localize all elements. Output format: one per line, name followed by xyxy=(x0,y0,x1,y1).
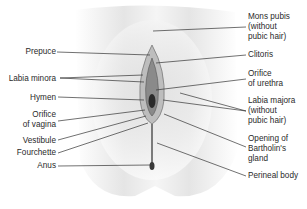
label-labia-minora: Labia minora xyxy=(4,74,56,84)
central-opening xyxy=(149,94,156,108)
lower-point xyxy=(150,162,155,170)
label-mons-pubis: Mons pubis (without pubic hair) xyxy=(248,12,290,42)
label-perineal-body: Perineal body xyxy=(248,171,298,181)
label-anus: Anus xyxy=(4,161,56,171)
label-opening-of-bartholins-gland: Opening of Bartholin's gland xyxy=(248,134,288,164)
label-fourchette: Fourchette xyxy=(4,148,56,158)
label-orifice-of-urethra: Orifice of urethra xyxy=(248,69,283,89)
label-clitoris: Clitoris xyxy=(248,50,273,60)
anatomy-figure: PrepuceLabia minoraHymenOrifice of vagin… xyxy=(0,0,307,209)
label-orifice-of-vagina: Orifice of vagina xyxy=(4,110,56,130)
label-labia-majora: Labia majora (without pubic hair) xyxy=(248,96,295,126)
label-vestibule: Vestibule xyxy=(4,136,56,146)
label-hymen: Hymen xyxy=(4,93,56,103)
label-prepuce: Prepuce xyxy=(4,47,56,57)
